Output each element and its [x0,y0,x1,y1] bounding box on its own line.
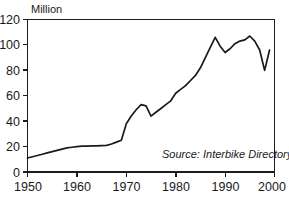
y-tick-label-100: 100 [0,38,20,52]
y-tick-label-80: 80 [6,64,20,78]
x-axis-tick-labels: 1950 1960 1970 1980 1990 2000 [14,180,286,194]
y-tick-label-20: 20 [6,140,20,154]
x-tick-label-1950: 1950 [14,180,42,194]
x-tick-label-1980: 1980 [162,180,190,194]
x-tick-label-1990: 1990 [212,180,240,194]
y-tick-label-0: 0 [13,166,20,180]
source-annotation: Source: Interbike Directory, UN [162,148,289,160]
y-tick-label-60: 60 [6,89,20,103]
x-tick-label-1960: 1960 [63,180,91,194]
y-axis-tick-labels: 0 20 40 60 80 100 120 [0,13,20,180]
x-tick-label-1970: 1970 [113,180,141,194]
y-tick-label-120: 120 [0,13,20,27]
data-series-line [28,36,270,158]
x-tick-label-2000: 2000 [258,180,286,194]
y-tick-label-40: 40 [6,115,20,129]
y-axis-label: Million [31,3,62,15]
line-chart: 0 20 40 60 80 100 120 Million 1950 1960 … [0,0,289,206]
chart-figure: 0 20 40 60 80 100 120 Million 1950 1960 … [0,0,289,206]
